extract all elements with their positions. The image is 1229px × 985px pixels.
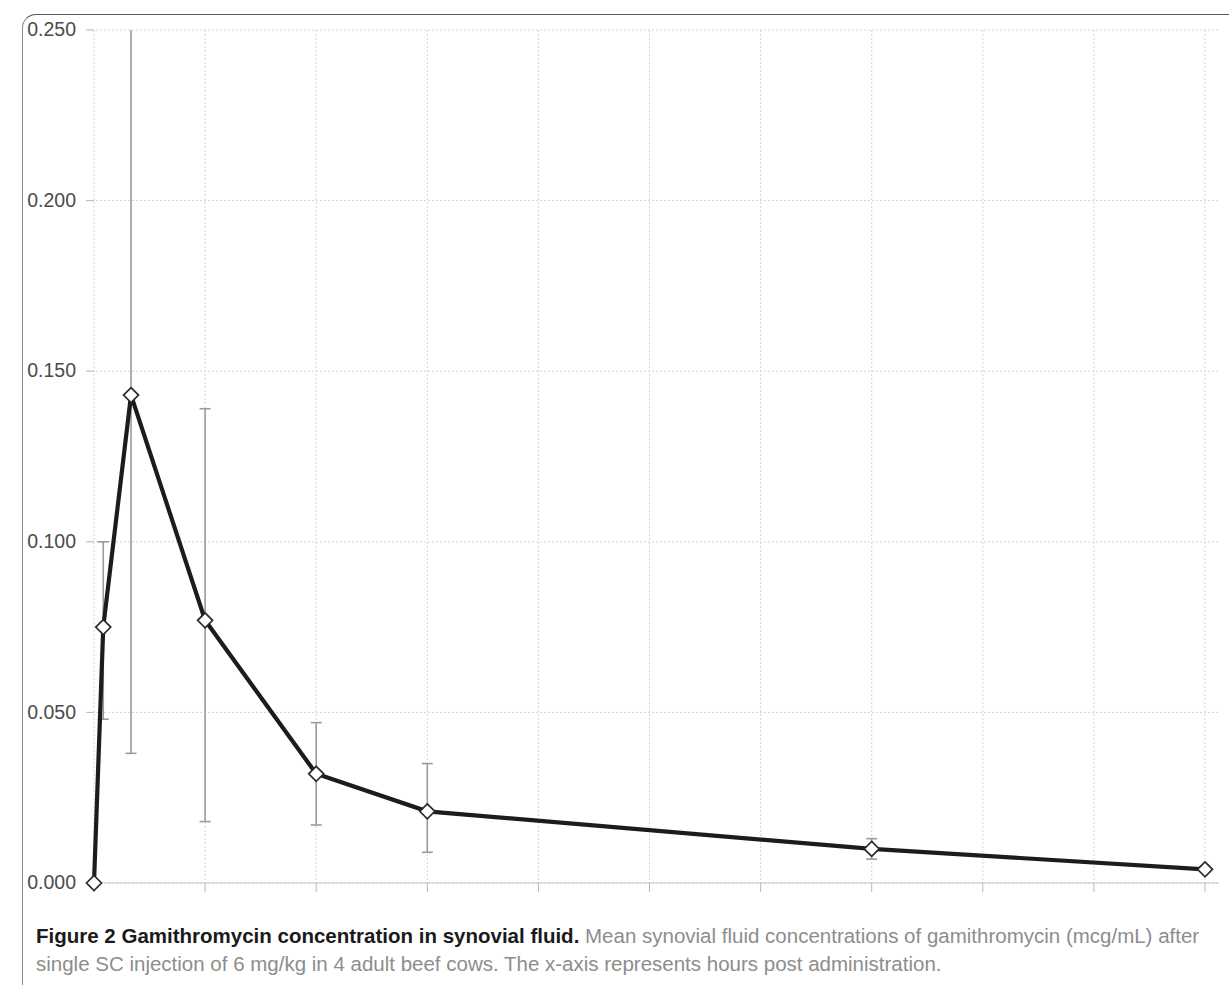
figure-caption: Figure 2 Gamithromycin concentration in …: [36, 922, 1216, 978]
x-axis-tick-label: 96: [528, 901, 550, 905]
x-axis-tick-label: 192: [967, 901, 1000, 905]
x-axis-tick-label: 24: [194, 901, 216, 905]
x-axis-tick-label: 168: [855, 901, 888, 905]
x-axis-tick-label: 48: [305, 901, 327, 905]
line-chart: 0.0000.0500.1000.1500.2000.250 024487296…: [0, 0, 1229, 905]
y-axis-tick-label: 0.200: [27, 189, 76, 211]
gridlines-group: [88, 30, 1219, 883]
figure-page: 0.0000.0500.1000.1500.2000.250 024487296…: [0, 0, 1229, 985]
data-point-marker: [96, 620, 111, 635]
y-axis-tick-label: 0.050: [27, 701, 76, 723]
data-point-marker: [124, 388, 139, 403]
data-point-marker: [864, 841, 879, 856]
axis-lines-group: [86, 30, 1219, 892]
x-axis-tick-label: 144: [744, 901, 777, 905]
x-axis-tick-label: 0: [89, 901, 100, 905]
x-axis-tick-label: 240: [1189, 901, 1222, 905]
x-axis-tick-label: 120: [633, 901, 666, 905]
y-axis-tick-label: 0.250: [27, 18, 76, 40]
data-point-marker: [1198, 862, 1213, 877]
caption-title: Figure 2 Gamithromycin concentration in …: [36, 924, 579, 947]
x-axis-tick-label: 216: [1078, 901, 1111, 905]
y-axis-tick-label: 0.100: [27, 530, 76, 552]
y-axis-tick-labels: 0.0000.0500.1000.1500.2000.250: [27, 18, 76, 893]
y-axis-tick-label: 0.150: [27, 359, 76, 381]
data-point-marker: [87, 876, 102, 891]
data-point-marker: [420, 804, 435, 819]
x-axis-tick-labels: 024487296120144168192216240: [89, 901, 1222, 905]
x-axis-tick-label: 72: [416, 901, 438, 905]
y-axis-tick-label: 0.000: [27, 871, 76, 893]
chart-plot-area: 0.0000.0500.1000.1500.2000.250 024487296…: [0, 0, 1229, 905]
